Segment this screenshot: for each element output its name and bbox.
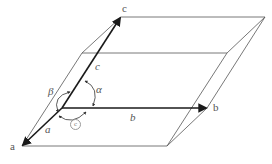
cell-edges [22, 17, 265, 146]
axis-b-edge-label: b [130, 112, 136, 123]
angle-beta-arc [57, 92, 71, 112]
axis-b-end-label: b [213, 102, 219, 113]
axis-a-end-label: a [10, 141, 15, 152]
angle-gamma-label: c [70, 119, 81, 130]
unit-cell-diagram [0, 0, 272, 164]
axis-c-edge-label: c [95, 61, 100, 72]
angle-beta-label: β [48, 86, 53, 97]
angle-alpha-arc [85, 81, 95, 106]
axis-c-end-label: c [122, 3, 127, 14]
axis-a-edge-label: a [45, 124, 51, 135]
angle-alpha-label: α [96, 84, 102, 95]
axis-c-vector [62, 18, 120, 108]
